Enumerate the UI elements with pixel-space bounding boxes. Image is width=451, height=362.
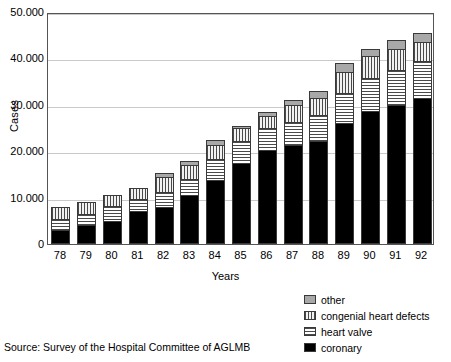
bar-segment[interactable]	[77, 214, 96, 225]
bar-segment[interactable]	[129, 188, 148, 199]
bar-segment[interactable]	[387, 105, 406, 244]
bar-segment[interactable]	[413, 61, 432, 98]
legend-item[interactable]: other	[304, 292, 430, 307]
x-tick-label: 81	[124, 249, 150, 261]
bar-segment[interactable]	[206, 159, 225, 180]
bar-column[interactable]	[206, 140, 225, 244]
bar-segment[interactable]	[361, 49, 380, 56]
bar-segment[interactable]	[361, 56, 380, 78]
bar-segment[interactable]	[335, 63, 354, 72]
bar-segment[interactable]	[232, 163, 251, 244]
bar-segment[interactable]	[77, 225, 96, 244]
legend-swatch	[304, 327, 316, 336]
x-tick-label: 92	[408, 249, 434, 261]
bar-segment[interactable]	[258, 116, 277, 128]
chart-legend: othercongenial heart defectsheart valvec…	[304, 292, 430, 356]
bar-column[interactable]	[284, 100, 303, 244]
bar-column[interactable]	[361, 49, 380, 244]
bar-segment[interactable]	[335, 93, 354, 123]
bar-segment[interactable]	[206, 145, 225, 159]
y-axis-title: Cases	[8, 81, 20, 151]
bar-segment[interactable]	[206, 180, 225, 244]
x-tick-label: 84	[202, 249, 228, 261]
bar-segment[interactable]	[284, 122, 303, 145]
bar-segment[interactable]	[284, 145, 303, 244]
bar-segment[interactable]	[413, 98, 432, 244]
y-tick-label: 10.000	[0, 193, 44, 204]
legend-item[interactable]: congenial heart defects	[304, 308, 430, 323]
bar-segment[interactable]	[413, 33, 432, 42]
x-axis-title: Years	[17, 270, 434, 282]
bar-segment[interactable]	[180, 165, 199, 179]
bar-segment[interactable]	[387, 49, 406, 70]
legend-label: congenial heart defects	[321, 310, 430, 322]
legend-label: heart valve	[321, 326, 372, 338]
chart-container: Cases 010.00020.00030.00040.00050.000 78…	[0, 0, 451, 362]
bar-segment[interactable]	[284, 105, 303, 122]
bar-segment[interactable]	[51, 207, 70, 219]
x-tick-label: 82	[150, 249, 176, 261]
bar-column[interactable]	[77, 202, 96, 244]
bar-segment[interactable]	[51, 230, 70, 244]
bar-segment[interactable]	[258, 128, 277, 150]
bar-segment[interactable]	[129, 199, 148, 210]
bar-segment[interactable]	[180, 179, 199, 195]
bar-segment[interactable]	[335, 72, 354, 93]
bar-segment[interactable]	[155, 177, 174, 192]
bar-segment[interactable]	[387, 40, 406, 49]
bar-segment[interactable]	[129, 211, 148, 244]
bar-segment[interactable]	[361, 111, 380, 244]
bar-segment[interactable]	[258, 150, 277, 244]
bar-column[interactable]	[180, 161, 199, 244]
legend-swatch	[304, 295, 316, 304]
bar-series-group	[48, 14, 433, 244]
y-tick-label: 20.000	[0, 146, 44, 157]
y-tick-label: 0	[0, 239, 44, 250]
bar-segment[interactable]	[77, 202, 96, 214]
plot-area	[47, 13, 434, 245]
x-tick-label: 85	[228, 249, 254, 261]
y-tick-label: 50.000	[0, 7, 44, 18]
bar-segment[interactable]	[309, 98, 328, 115]
x-tick-label: 88	[305, 249, 331, 261]
bar-segment[interactable]	[387, 70, 406, 105]
bar-segment[interactable]	[309, 91, 328, 98]
y-tick-label: 30.000	[0, 100, 44, 111]
x-tick-label: 78	[47, 249, 73, 261]
bar-segment[interactable]	[155, 207, 174, 244]
x-tick-label: 89	[331, 249, 357, 261]
legend-swatch	[304, 311, 316, 320]
legend-label: other	[321, 294, 345, 306]
bar-column[interactable]	[335, 63, 354, 244]
bar-segment[interactable]	[51, 219, 70, 231]
x-tick-label: 90	[357, 249, 383, 261]
bar-segment[interactable]	[180, 195, 199, 244]
bar-segment[interactable]	[232, 141, 251, 163]
bar-segment[interactable]	[232, 128, 251, 141]
legend-item[interactable]: coronary	[304, 340, 430, 355]
bar-segment[interactable]	[103, 206, 122, 221]
bar-segment[interactable]	[413, 42, 432, 61]
x-tick-label: 86	[253, 249, 279, 261]
bar-column[interactable]	[129, 188, 148, 244]
legend-item[interactable]: heart valve	[304, 324, 430, 339]
bar-column[interactable]	[155, 173, 174, 244]
bar-segment[interactable]	[335, 123, 354, 244]
bar-column[interactable]	[387, 40, 406, 244]
bar-segment[interactable]	[155, 192, 174, 207]
bar-segment[interactable]	[361, 78, 380, 110]
x-tick-label: 91	[382, 249, 408, 261]
bar-column[interactable]	[413, 33, 432, 244]
bar-segment[interactable]	[309, 141, 328, 244]
bar-column[interactable]	[258, 112, 277, 244]
legend-label: coronary	[321, 342, 362, 354]
bar-column[interactable]	[103, 195, 122, 244]
bar-column[interactable]	[309, 91, 328, 244]
bar-column[interactable]	[232, 126, 251, 244]
bar-segment[interactable]	[103, 195, 122, 206]
bar-segment[interactable]	[103, 221, 122, 244]
x-tick-label: 87	[279, 249, 305, 261]
bar-column[interactable]	[51, 207, 70, 244]
bar-segment[interactable]	[309, 115, 328, 141]
y-tick-label: 40.000	[0, 53, 44, 64]
